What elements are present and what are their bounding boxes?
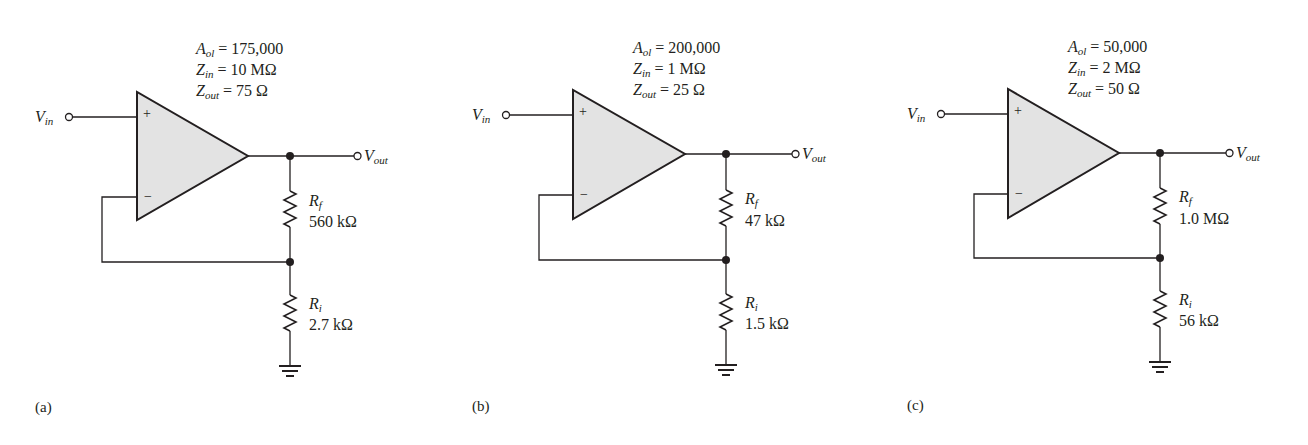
circuit-panel-b: Aol = 200,000 Zin = 1 MΩ Zout = 25 Ω Vin… bbox=[436, 0, 872, 445]
vin-label: Vin bbox=[907, 105, 925, 123]
ground-icon bbox=[279, 366, 301, 376]
ri-label: Ri bbox=[309, 295, 322, 313]
plus-sign: + bbox=[1014, 102, 1022, 120]
vout-terminal bbox=[792, 151, 799, 158]
output-impedance: Zout = 75 Ω bbox=[196, 80, 283, 101]
rf-resistor bbox=[720, 190, 732, 226]
minus-sign: − bbox=[1015, 185, 1023, 203]
output-impedance: Zout = 50 Ω bbox=[1068, 78, 1147, 99]
circuit-panel-c: Aol = 50,000 Zin = 2 MΩ Zout = 50 Ω Vin … bbox=[872, 0, 1308, 445]
vin-label: Vin bbox=[472, 106, 490, 124]
rf-label: Rf bbox=[745, 190, 758, 208]
rf-resistor bbox=[1154, 188, 1166, 224]
vout-terminal bbox=[1226, 150, 1233, 157]
rf-resistor bbox=[284, 191, 296, 227]
ri-value: 1.5 kΩ bbox=[745, 315, 789, 333]
open-loop-gain: Aol = 200,000 bbox=[633, 37, 720, 58]
vout-label: Vout bbox=[1236, 144, 1260, 162]
circuit-panel-a: Aol = 175,000 Zin = 10 MΩ Zout = 75 Ω Vi… bbox=[0, 0, 436, 445]
ri-resistor bbox=[1154, 291, 1166, 327]
input-impedance: Zin = 2 MΩ bbox=[1068, 57, 1147, 78]
panel-label: (c) bbox=[907, 397, 924, 414]
vout-label: Vout bbox=[364, 147, 388, 165]
rf-label: Rf bbox=[1179, 188, 1192, 206]
panel-label: (a) bbox=[35, 399, 52, 416]
vout-terminal bbox=[354, 153, 361, 160]
rf-value: 1.0 MΩ bbox=[1179, 210, 1229, 228]
ri-value: 2.7 kΩ bbox=[309, 316, 353, 334]
minus-sign: − bbox=[144, 188, 152, 206]
ground-icon bbox=[715, 365, 737, 375]
plus-sign: + bbox=[579, 103, 587, 121]
ri-label: Ri bbox=[1179, 291, 1192, 309]
opamp-triangle bbox=[1008, 89, 1119, 218]
opamp-triangle bbox=[137, 92, 248, 220]
opamp-parameters: Aol = 175,000 Zin = 10 MΩ Zout = 75 Ω bbox=[196, 38, 283, 101]
input-impedance: Zin = 1 MΩ bbox=[633, 58, 720, 79]
ground-icon bbox=[1149, 362, 1171, 372]
plus-sign: + bbox=[143, 105, 151, 123]
minus-sign: − bbox=[580, 186, 588, 204]
vin-terminal bbox=[503, 112, 510, 119]
ri-resistor bbox=[284, 295, 296, 331]
open-loop-gain: Aol = 175,000 bbox=[196, 38, 283, 59]
rf-value: 47 kΩ bbox=[745, 212, 785, 230]
open-loop-gain: Aol = 50,000 bbox=[1068, 36, 1147, 57]
vin-label: Vin bbox=[35, 108, 53, 126]
vin-terminal bbox=[938, 111, 945, 118]
vout-label: Vout bbox=[802, 145, 826, 163]
opamp-triangle bbox=[573, 90, 685, 219]
ri-label: Ri bbox=[745, 294, 758, 312]
ri-resistor bbox=[720, 294, 732, 330]
output-impedance: Zout = 25 Ω bbox=[633, 79, 720, 100]
vin-terminal bbox=[66, 114, 73, 121]
opamp-parameters: Aol = 200,000 Zin = 1 MΩ Zout = 25 Ω bbox=[633, 37, 720, 100]
input-impedance: Zin = 10 MΩ bbox=[196, 59, 283, 80]
rf-value: 560 kΩ bbox=[309, 213, 357, 231]
ri-value: 56 kΩ bbox=[1179, 312, 1219, 330]
opamp-parameters: Aol = 50,000 Zin = 2 MΩ Zout = 50 Ω bbox=[1068, 36, 1147, 99]
panel-label: (b) bbox=[472, 398, 490, 415]
rf-label: Rf bbox=[309, 192, 322, 210]
